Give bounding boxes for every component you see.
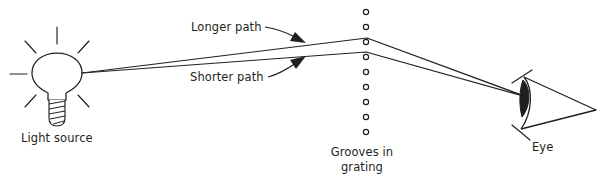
light-path-group: [82, 38, 527, 97]
groove-dot: [363, 129, 368, 134]
label-light-source: Light source: [21, 131, 93, 146]
eye-upper-lash: [512, 70, 532, 83]
longer-path-leader-line: [265, 27, 297, 38]
label-grooves-line1: Grooves in: [297, 145, 427, 160]
eye-group: [512, 70, 596, 140]
groove-dot: [363, 39, 368, 44]
groove-dot: [363, 54, 368, 59]
light-bulb-group: [10, 27, 89, 126]
label-leader-arrows: [265, 27, 306, 77]
eye-pupil: [520, 80, 529, 117]
groove-dot: [363, 9, 368, 14]
label-grooves-line2: grating: [297, 160, 427, 175]
groove-dot: [363, 99, 368, 104]
shorter-path-leader-line: [268, 63, 296, 77]
label-shorter-path: Shorter path: [190, 70, 264, 85]
longer-path-arrowhead: [290, 32, 306, 43]
grating-grooves-group: [363, 9, 368, 134]
bulb-ray-nw: [25, 41, 36, 53]
diagram-canvas: Light source Longer path Shorter path Gr…: [0, 0, 610, 192]
eye-vision-cone: [521, 77, 596, 129]
bulb-glass: [32, 53, 82, 100]
bulb-ray-sw: [25, 95, 36, 107]
label-longer-path: Longer path: [191, 20, 262, 35]
bulb-ray-se: [78, 95, 89, 107]
groove-dot: [363, 114, 368, 119]
bulb-ray-ne: [78, 41, 89, 53]
groove-dot: [363, 24, 368, 29]
shorter-path-ray: [82, 52, 527, 97]
label-eye: Eye: [532, 140, 553, 155]
label-grooves-in-grating: Grooves in grating: [297, 145, 427, 175]
groove-dot: [363, 69, 368, 74]
groove-dot: [363, 84, 368, 89]
